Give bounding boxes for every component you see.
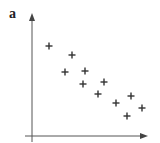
x-axis-arrow-icon <box>140 133 148 139</box>
plus-marker-icon <box>69 52 76 59</box>
plus-marker-icon <box>139 105 146 112</box>
plus-marker-icon <box>124 113 131 120</box>
plus-marker-icon <box>80 81 87 88</box>
plus-marker-icon <box>82 68 89 75</box>
plus-marker-icon <box>46 43 53 50</box>
y-axis-arrow-icon <box>29 13 35 21</box>
plus-marker-icon <box>95 91 102 98</box>
scatter-plot <box>0 0 160 143</box>
plus-marker-icon <box>113 100 120 107</box>
plus-marker-icon <box>128 93 135 100</box>
plus-marker-icon <box>101 79 108 86</box>
plus-marker-icon <box>62 69 69 76</box>
